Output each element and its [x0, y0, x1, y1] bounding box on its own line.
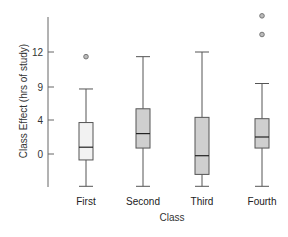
- box-third: [195, 52, 209, 186]
- x-axis-title: Class: [159, 212, 184, 223]
- y-tick-label: 9: [37, 82, 43, 93]
- iqr-box: [255, 119, 269, 148]
- y-tick-label: 0: [37, 149, 43, 160]
- box-second: [136, 57, 150, 187]
- iqr-box: [195, 117, 209, 174]
- category-labels: FirstSecondThirdFourth: [76, 196, 276, 207]
- y-axis-title: Class Effect (hrs of study): [18, 44, 29, 158]
- iqr-box: [79, 123, 93, 160]
- category-label-second: Second: [126, 196, 160, 207]
- category-label-first: First: [76, 196, 96, 207]
- y-axis-ticks: 12940: [32, 47, 54, 160]
- y-tick-label: 4: [37, 115, 43, 126]
- box-plot-chart: 12940 Class Effect (hrs of study) FirstS…: [0, 0, 288, 237]
- y-tick-label: 12: [32, 47, 44, 58]
- outlier-point: [260, 32, 265, 37]
- iqr-box: [136, 109, 150, 148]
- boxes-group: [79, 14, 269, 187]
- outlier-point: [84, 54, 89, 59]
- box-fourth: [255, 14, 269, 187]
- box-first: [79, 54, 93, 186]
- outlier-point: [260, 14, 265, 19]
- category-label-third: Third: [191, 196, 214, 207]
- category-label-fourth: Fourth: [248, 196, 277, 207]
